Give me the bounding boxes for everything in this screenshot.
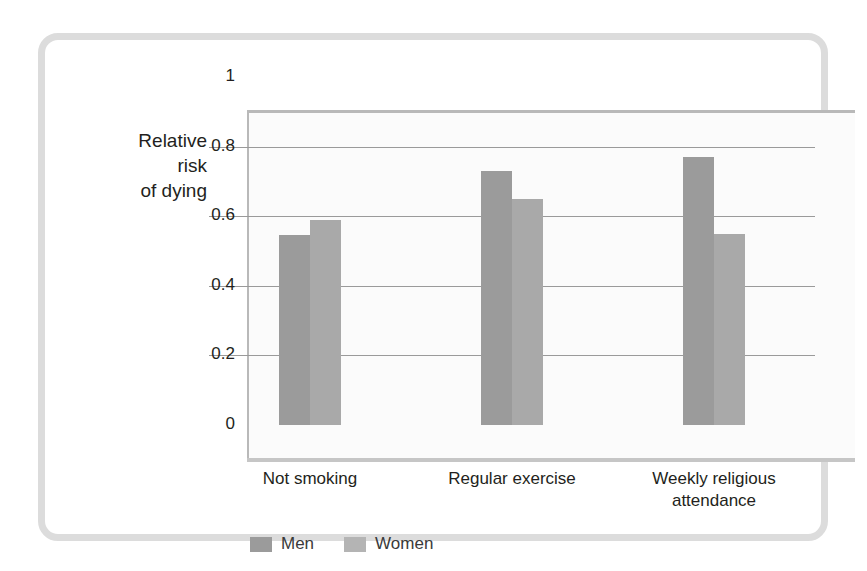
- bar-women-0: [310, 220, 341, 425]
- x-axis-line: [247, 458, 855, 462]
- y-axis-tick-label: 0.8: [175, 136, 235, 156]
- y-axis-tick-label: 1: [175, 66, 235, 86]
- chart-legend: MenWomen: [250, 534, 433, 554]
- figure-card: Relative risk of dying 00.20.40.60.81 No…: [38, 33, 828, 541]
- y-axis-tick-label: 0.2: [175, 344, 235, 364]
- legend-item-women: Women: [344, 534, 433, 554]
- y-axis-tick-label: 0.6: [175, 205, 235, 225]
- bar-women-1: [512, 199, 543, 425]
- legend-swatch-icon: [250, 537, 272, 552]
- x-axis-category-label: Not smoking: [200, 468, 420, 490]
- bar-men-0: [279, 235, 310, 425]
- x-axis-category-label: Regular exercise: [402, 468, 622, 490]
- legend-label: Men: [281, 534, 314, 554]
- bar-men-1: [481, 171, 512, 425]
- y-axis-tick-label: 0: [175, 414, 235, 434]
- gridline: [209, 147, 815, 148]
- legend-swatch-icon: [344, 537, 366, 552]
- legend-item-men: Men: [250, 534, 314, 554]
- bar-women-2: [714, 234, 745, 425]
- x-axis-category-label: Weekly religious attendance: [604, 468, 824, 512]
- bar-men-2: [683, 157, 714, 425]
- legend-label: Women: [375, 534, 433, 554]
- y-axis-tick-label: 0.4: [175, 275, 235, 295]
